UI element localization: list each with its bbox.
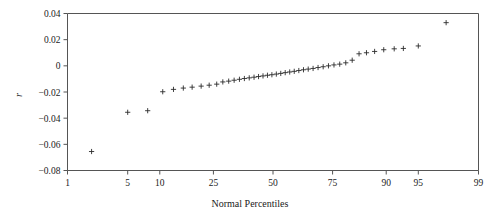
- plot-canvas: 1510255075909599 0.040.020−0.02−0.04−0.0…: [0, 0, 500, 214]
- y-tick-label: 0.02: [44, 35, 61, 45]
- x-tick-label: 95: [414, 178, 424, 188]
- x-axis-tick-labels: 1510255075909599: [65, 178, 483, 188]
- x-tick-label: 25: [209, 178, 219, 188]
- y-tick-label: 0.04: [44, 9, 61, 19]
- x-tick-label: 10: [155, 178, 165, 188]
- y-tick-label: −0.06: [39, 140, 61, 150]
- y-tick-label: 0: [56, 61, 61, 71]
- chart-background: [0, 0, 500, 214]
- x-tick-label: 99: [474, 178, 484, 188]
- y-tick-label: −0.02: [39, 88, 61, 98]
- normal-probability-plot: 1510255075909599 0.040.020−0.02−0.04−0.0…: [0, 0, 500, 214]
- x-tick-label: 90: [381, 178, 391, 188]
- y-tick-label: −0.04: [39, 114, 61, 124]
- x-tick-label: 50: [268, 178, 278, 188]
- x-tick-label: 75: [328, 178, 338, 188]
- x-tick-label: 1: [65, 178, 70, 188]
- x-tick-label: 5: [125, 178, 130, 188]
- x-axis-title: Normal Percentiles: [212, 198, 289, 209]
- y-axis-title: r: [13, 93, 24, 97]
- y-tick-label: −0.08: [39, 166, 61, 176]
